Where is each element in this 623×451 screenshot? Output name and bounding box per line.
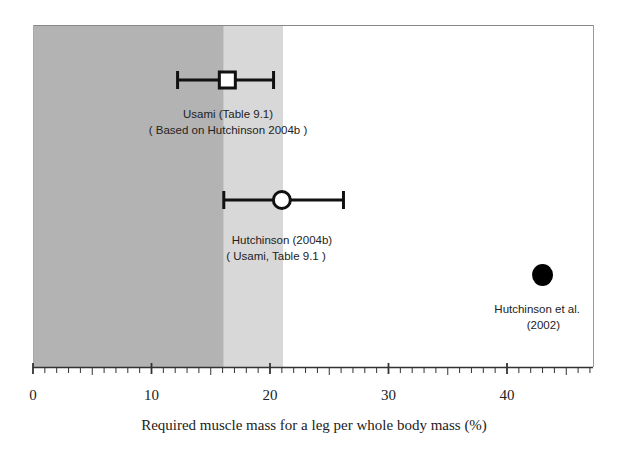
data-label: ( Based on Hutchinson 2004b ) xyxy=(149,124,308,136)
data-label: ( Usami, Table 9.1 ) xyxy=(226,250,326,262)
data-label: Usami (Table 9.1) xyxy=(183,108,273,120)
dark-band xyxy=(33,25,224,367)
chart: 010203040 Usami (Table 9.1)( Based on Hu… xyxy=(0,0,623,451)
x-tick-label: 20 xyxy=(263,387,278,403)
x-axis-tick-labels: 010203040 xyxy=(29,387,514,403)
data-label: (2002) xyxy=(527,319,560,331)
circle-marker xyxy=(273,192,290,209)
x-tick-label: 40 xyxy=(500,387,515,403)
x-tick-label: 10 xyxy=(144,387,159,403)
x-axis-title: Required muscle mass for a leg per whole… xyxy=(141,417,487,434)
filled-circle-marker xyxy=(532,264,553,286)
square-marker xyxy=(219,72,235,88)
x-tick-label: 0 xyxy=(29,387,37,403)
data-label: Hutchinson et al. xyxy=(494,303,580,315)
x-tick-label: 30 xyxy=(381,387,396,403)
data-label: Hutchinson (2004b) xyxy=(232,234,333,246)
